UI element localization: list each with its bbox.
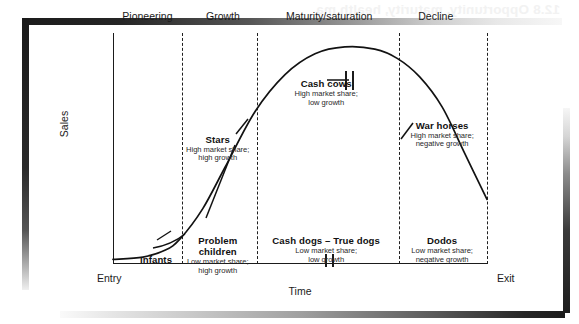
annotation-cash-dogs-true-dogs: Cash dogs – True dogsLow market share;lo… <box>272 236 380 264</box>
annotation-war-horses: War horsesHigh market share;negative gro… <box>410 121 473 149</box>
x-axis-end-label: Exit <box>497 272 515 284</box>
scan-frame-left-edge <box>22 18 29 290</box>
annotation-infants: Infants <box>140 255 172 266</box>
x-axis-label: Time <box>289 285 312 297</box>
stage-label-maturity-saturation: Maturity/saturation <box>286 10 372 22</box>
annotation-cash-cows: Cash cowsHigh market share;low growth <box>295 79 358 107</box>
annotation-title: Infants <box>140 255 172 266</box>
stage-divider-4 <box>487 33 488 264</box>
x-axis-start-label: Entry <box>97 272 122 284</box>
annotation-dodos: DodosLow market share;negative growth <box>411 236 473 264</box>
annotation-subtitle-line: negative growth <box>410 140 473 149</box>
annotation-subtitle-line: low growth <box>272 256 380 265</box>
annotation-stars: StarsHigh market share;high growth <box>186 135 249 163</box>
stage-label-growth: Growth <box>206 10 240 22</box>
annotation-subtitle-line: low growth <box>295 99 358 108</box>
annotation-problem-children: Problem childrenLow market share;high gr… <box>187 236 249 275</box>
annotation-subtitle-line: negative growth <box>411 256 473 265</box>
scan-frame-bottom-edge <box>60 311 565 318</box>
annotation-title: Problem children <box>192 236 244 258</box>
stage-label-pioneering: Pioneering <box>122 10 172 22</box>
scanned-page: 12.8 Opportunity, maturity, health ma Sa… <box>0 0 579 324</box>
stage-label-decline: Decline <box>418 10 453 22</box>
scan-frame-right-edge <box>563 108 570 313</box>
annotation-subtitle-line: high growth <box>186 154 249 163</box>
annotation-subtitle-line: high growth <box>187 267 249 276</box>
chart-plot-area: PioneeringGrowthMaturity/saturationDecli… <box>113 33 487 264</box>
y-axis-label: Sales <box>58 111 70 137</box>
